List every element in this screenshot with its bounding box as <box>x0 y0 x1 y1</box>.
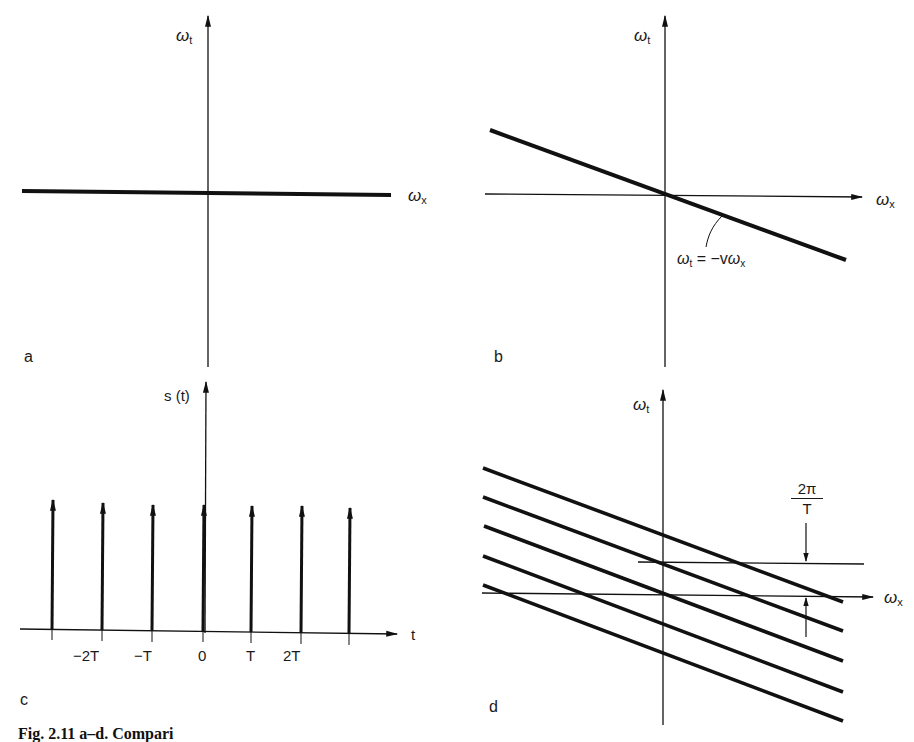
panel-d-y-axis-label: ωt <box>633 396 649 415</box>
panel-b-letter: b <box>494 349 503 365</box>
panel-b-leader-line <box>706 216 722 247</box>
panel-a-spectrum-line <box>22 191 391 195</box>
panel-d-graphics <box>482 390 873 725</box>
panel-b-graphics <box>485 16 862 367</box>
panel-c-y-axis-label: s (t) <box>164 388 190 403</box>
panel-a-y-axis-label: ωt <box>176 27 192 46</box>
panel-b-equation-label: ωt = −vωx <box>677 251 745 269</box>
panel-a-letter: a <box>24 349 33 365</box>
panel-d-letter: d <box>489 699 498 715</box>
panel-c-impulses <box>52 500 350 633</box>
panel-c-tick-label: −2T <box>73 648 99 663</box>
panel-c-tick-label: 0 <box>198 648 206 663</box>
spacing-denominator: T <box>791 499 823 516</box>
panel-d-x-axis <box>482 593 873 597</box>
panel-b-x-axis-label: ωx <box>876 191 895 210</box>
panel-a-x-axis-label: ωx <box>408 187 427 206</box>
panel-c-tick-label: −T <box>134 648 152 663</box>
panel-b-y-axis-label: ωt <box>634 27 650 46</box>
panel-d-spacing-label: 2π T <box>791 481 823 516</box>
figure-caption: Fig. 2.11 a–d. Compari <box>18 726 174 742</box>
panel-c-letter: c <box>20 692 28 708</box>
panel-c-t-axis <box>20 629 397 634</box>
panel-c-tick-label: 2T <box>283 648 301 663</box>
panel-c-graphics <box>20 382 397 645</box>
panel-d-x-axis-label: ωx <box>884 589 903 608</box>
panel-d-offset-reference-line <box>638 562 864 564</box>
spacing-numerator: 2π <box>791 481 823 499</box>
panel-a-graphics <box>22 16 391 367</box>
panel-c-tick-label: T <box>246 648 255 663</box>
panel-c-x-axis-label: t <box>411 627 415 642</box>
